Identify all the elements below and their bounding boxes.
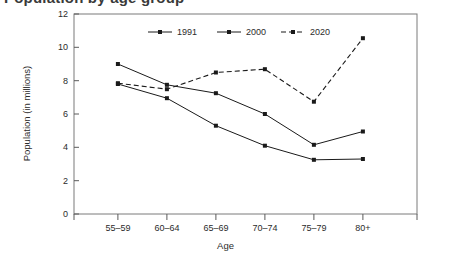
y-axis-title: Population (in millions) xyxy=(21,34,32,194)
y-tick-label-8: 8 xyxy=(40,76,68,86)
x-axis-ticks xyxy=(74,214,417,220)
y-tick-label-0: 0 xyxy=(40,209,68,219)
x-tick-label-80-plus: 80+ xyxy=(333,223,393,233)
y-tick-label-2: 2 xyxy=(40,176,68,186)
legend-label-2020: 2020 xyxy=(310,27,330,37)
y-tick-label-4: 4 xyxy=(40,142,68,152)
y-tick-label-12: 12 xyxy=(40,9,68,19)
y-tick-label-10: 10 xyxy=(40,42,68,52)
legend-label-2000: 2000 xyxy=(246,27,266,37)
y-tick-label-6: 6 xyxy=(40,109,68,119)
x-axis-title: Age xyxy=(0,240,451,251)
legend-label-1991: 1991 xyxy=(177,27,197,37)
plot-frame xyxy=(74,14,417,214)
line-chart-figure: 0 2 4 6 8 10 12 55–59 60–64 65–69 70–74 … xyxy=(0,0,451,264)
plot-border xyxy=(74,14,417,214)
